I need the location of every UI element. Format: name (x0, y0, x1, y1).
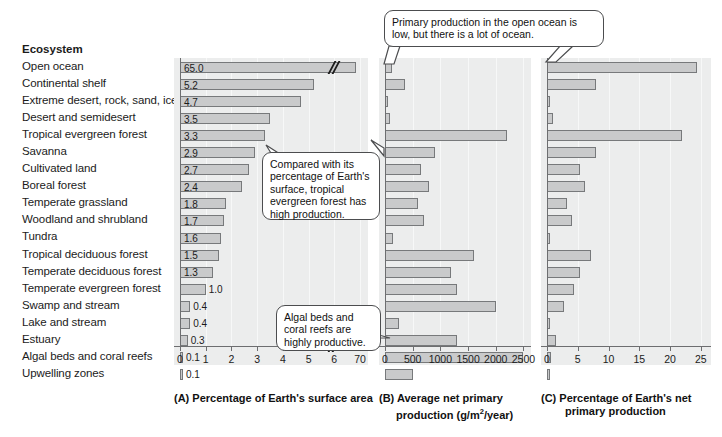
callout-open-ocean: Primary production in the open ocean is … (384, 10, 604, 47)
callout-tropical-forest: Compared with its percentage of Earth's … (262, 152, 380, 220)
callout-tropical-forest-text: Compared with its percentage of Earth's … (270, 158, 369, 220)
figure-root: Ecosystem Open oceanContinental shelfExt… (0, 0, 722, 437)
callout-open-ocean-text: Primary production in the open ocean is … (392, 16, 577, 40)
callout-algal-beds: Algal beds and coral reefs are highly pr… (276, 305, 381, 351)
callout-algal-beds-text: Algal beds and coral reefs are highly pr… (284, 311, 366, 348)
